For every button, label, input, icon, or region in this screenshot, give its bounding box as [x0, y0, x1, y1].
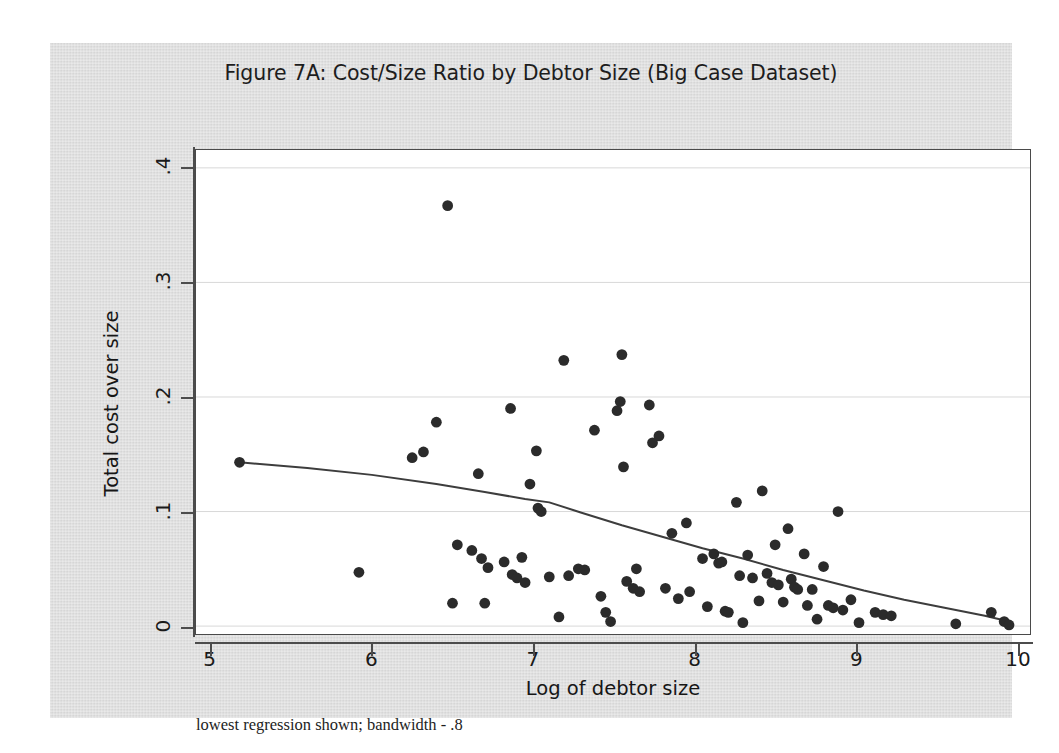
scatter-point [479, 598, 490, 609]
scatter-point [1004, 620, 1015, 631]
scatter-point [754, 596, 765, 607]
scatter-point [631, 563, 642, 574]
scatter-point [886, 610, 897, 621]
scatter-point [778, 597, 789, 608]
scatter-point [757, 486, 768, 497]
y-axis-label: Total cost over size [100, 279, 123, 529]
scatter-point [612, 405, 623, 416]
scatter-point [773, 579, 784, 590]
scatter-point [702, 601, 713, 612]
lowess-regression-line [240, 462, 1009, 621]
y-tick-label: .4 [151, 146, 175, 186]
scatter-point [499, 557, 510, 568]
scatter-point [483, 562, 494, 573]
x-axis-label: Log of debtor size [195, 677, 1031, 700]
scatter-point [723, 607, 734, 618]
x-tick-mark [1018, 643, 1020, 656]
y-tick-label: .1 [151, 491, 175, 531]
scatter-point [234, 457, 245, 468]
scatter-point [600, 607, 611, 618]
scatter-point [442, 200, 453, 211]
scatter-point [747, 573, 758, 584]
scatter-point [531, 445, 542, 456]
x-tick-mark [210, 643, 212, 656]
scatter-point [731, 497, 742, 508]
scatter-point [681, 518, 692, 529]
scatter-point [770, 539, 781, 550]
scatter-point [762, 568, 773, 579]
scatter-point [558, 355, 569, 366]
scatter-point [792, 584, 803, 595]
scatter-point [644, 400, 655, 411]
scatter-point [354, 567, 365, 578]
scatter-point [717, 557, 728, 568]
x-axis-line [195, 642, 1033, 644]
scatter-point [616, 349, 627, 360]
scatter-point [505, 403, 516, 414]
scatter-point [802, 600, 813, 611]
scatter-point [520, 577, 531, 588]
scatter-point [807, 584, 818, 595]
figure-panel: Figure 7A: Cost/Size Ratio by Debtor Siz… [50, 43, 1012, 718]
scatter-point [708, 549, 719, 560]
scatter-point [589, 425, 600, 436]
chart-title: Figure 7A: Cost/Size Ratio by Debtor Siz… [50, 61, 1012, 85]
y-tick-label: .2 [151, 376, 175, 416]
scatter-point [418, 447, 429, 458]
scatter-point [544, 571, 555, 582]
scatter-point [554, 612, 565, 623]
figure-footnote: lowest regression shown; bandwidth - .8 [196, 715, 463, 735]
x-tick-mark [856, 643, 858, 656]
scatter-point [742, 550, 753, 561]
scatter-point [799, 549, 810, 560]
plot-area [195, 149, 1031, 635]
scatter-point [846, 594, 857, 605]
scatter-point [666, 528, 677, 539]
scatter-plot-svg [196, 150, 1030, 634]
x-tick-mark [695, 643, 697, 656]
y-tick-label: .3 [151, 261, 175, 301]
scatter-point [516, 552, 527, 563]
scatter-point [828, 602, 839, 613]
scatter-point [634, 586, 645, 597]
lowess-path [240, 462, 1009, 621]
scatter-point [854, 617, 865, 628]
scatter-point [525, 479, 536, 490]
scatter-point [431, 417, 442, 428]
scatter-point [812, 614, 823, 625]
scatter-point [660, 583, 671, 594]
y-tick-mark [181, 167, 194, 169]
scatter-point [654, 431, 665, 442]
y-tick-mark [181, 397, 194, 399]
scatter-point [473, 468, 484, 479]
scatter-point [697, 553, 708, 564]
y-tick-mark [181, 282, 194, 284]
scatter-point [407, 452, 418, 463]
y-tick-label: 0 [151, 606, 175, 646]
scatter-point [734, 570, 745, 581]
scatter-point [615, 396, 626, 407]
scatter-point [563, 570, 574, 581]
scatter-points [234, 200, 1014, 630]
scatter-point [833, 506, 844, 517]
scatter-point [452, 539, 463, 550]
scatter-point [447, 598, 458, 609]
scatter-point [684, 586, 695, 597]
scatter-point [618, 461, 629, 472]
scatter-point [837, 605, 848, 616]
scatter-point [476, 553, 487, 564]
scatter-point [986, 607, 997, 618]
y-tick-mark [181, 512, 194, 514]
scatter-point [596, 591, 607, 602]
scatter-point [783, 523, 794, 534]
gridlines [196, 168, 1030, 626]
scatter-point [579, 565, 590, 576]
scatter-point [536, 506, 547, 517]
scatter-point [605, 616, 616, 627]
scatter-point [950, 618, 961, 629]
scatter-point [673, 593, 684, 604]
x-tick-mark [533, 643, 535, 656]
scatter-point [737, 617, 748, 628]
scatter-point [818, 561, 829, 572]
scatter-point [466, 545, 477, 556]
